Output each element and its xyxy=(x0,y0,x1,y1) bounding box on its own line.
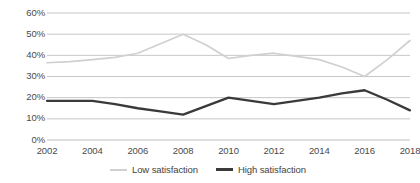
x-axis-tick-label: 2004 xyxy=(82,145,103,156)
legend-label-high-satisfaction: High satisfaction xyxy=(238,164,306,175)
chart-legend: Low satisfaction High satisfaction xyxy=(0,164,416,175)
x-axis-tick-label: 2008 xyxy=(173,145,194,156)
x-axis-tick-label: 2002 xyxy=(37,145,58,156)
y-axis-tick-label: 0% xyxy=(3,135,45,145)
y-axis-tick-label: 60% xyxy=(3,8,45,18)
series-lines xyxy=(47,34,410,114)
legend-item-low-satisfaction[interactable]: Low satisfaction xyxy=(110,164,198,175)
series-line-high-satisfaction xyxy=(47,90,410,114)
x-axis-tick-label: 2010 xyxy=(218,145,239,156)
legend-swatch-low-satisfaction-icon xyxy=(110,169,127,171)
y-axis-tick-label: 10% xyxy=(3,113,45,123)
x-axis-tick-label: 2016 xyxy=(354,145,375,156)
y-axis-tick-label: 50% xyxy=(3,29,45,39)
gridlines xyxy=(47,13,410,140)
legend-swatch-high-satisfaction-icon xyxy=(216,168,233,171)
y-axis-tick-label: 20% xyxy=(3,92,45,102)
x-axis-tick-label: 2018 xyxy=(400,145,420,156)
legend-label-low-satisfaction: Low satisfaction xyxy=(132,164,198,175)
x-axis-tick-label: 2012 xyxy=(264,145,285,156)
legend-item-high-satisfaction[interactable]: High satisfaction xyxy=(216,164,306,175)
y-axis-tick-label: 40% xyxy=(3,50,45,60)
y-axis-tick-label: 30% xyxy=(3,71,45,81)
x-axis-tick-label: 2006 xyxy=(127,145,148,156)
x-axis-tick-label: 2014 xyxy=(309,145,330,156)
